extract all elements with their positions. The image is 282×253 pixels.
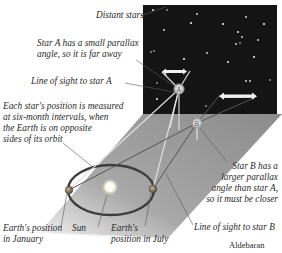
star-b-marker: B — [192, 118, 202, 128]
label-distant-stars: Distant stars — [96, 10, 144, 21]
label-sun: Sun — [72, 223, 86, 234]
svg-text:B: B — [195, 120, 199, 127]
label-earth-january: Earth's position in January — [3, 223, 62, 245]
sky-panel — [143, 5, 277, 115]
star-a-marker: A — [174, 84, 184, 94]
label-line-of-sight-a: Line of sight to star A — [31, 76, 112, 87]
label-six-month-intervals: Each star's position is measured at six-… — [3, 101, 123, 145]
sun-icon — [101, 178, 119, 196]
label-earth-july: Earth's position in July — [111, 223, 168, 245]
label-star-a-small-parallax: Star A has a small parallax angle, so it… — [37, 38, 139, 60]
earth-january-icon — [65, 186, 73, 194]
caption-aldebaran: Aldebaran — [229, 240, 264, 251]
label-line-of-sight-b: Line of sight to star B — [194, 222, 275, 233]
svg-text:A: A — [177, 86, 182, 93]
earth-july-icon — [149, 185, 157, 193]
label-star-b-larger-parallax: Star B has a larger parallax angle than … — [206, 161, 278, 205]
